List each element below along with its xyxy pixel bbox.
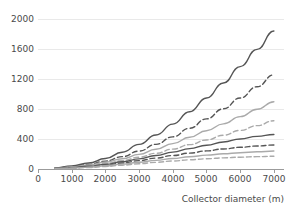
chart-container: 0400800120016002000 01000200030004000500… [0,0,292,207]
x-axis-tick-label: 3000 [128,175,151,184]
y-axis-tick-label: 2000 [2,15,34,24]
x-axis-tick-mark [206,169,207,173]
x-axis-tick-mark [72,169,73,173]
line-series-group [38,12,284,169]
y-axis-tick-label: 400 [2,135,34,144]
x-axis-tick-label: 6000 [229,175,252,184]
x-axis-tick-mark [105,169,106,173]
x-axis-tick-mark [38,169,39,173]
y-axis-tick-label: 0 [2,165,34,174]
x-axis-tick-mark [139,169,140,173]
x-axis-baseline [38,169,284,170]
x-axis-tick-label: 0 [35,175,41,184]
y-axis-tick-label: 1200 [2,75,34,84]
line-series-4 [55,121,274,169]
y-axis-tick-label: 800 [2,105,34,114]
x-axis-tick-label: 4000 [162,175,185,184]
x-axis-tick-label: 2000 [94,175,117,184]
x-axis-tick-mark [274,169,275,173]
plot-area: 0400800120016002000 01000200030004000500… [38,12,284,169]
x-axis-label: Collector diameter (m) [182,194,284,204]
x-axis-tick-label: 7000 [263,175,286,184]
line-series-3 [55,102,274,169]
y-axis-tick-label: 1600 [2,45,34,54]
x-axis-tick-label: 5000 [195,175,218,184]
x-axis-tick-label: 1000 [61,175,84,184]
x-axis-tick-mark [240,169,241,173]
x-axis-tick-mark [173,169,174,173]
